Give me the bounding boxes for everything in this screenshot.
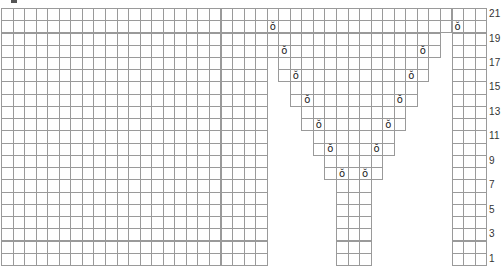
grid-cell — [255, 94, 268, 107]
grid-cell — [428, 45, 441, 58]
grid-cell — [475, 253, 488, 266]
grid-cell — [475, 155, 488, 168]
grid-cell — [475, 179, 488, 192]
grid-cell — [428, 33, 441, 46]
grid-cell — [255, 118, 268, 131]
yarn-over-icon: ŏ — [313, 120, 324, 130]
yarn-over-icon: ŏ — [394, 95, 405, 105]
grid-cell — [394, 118, 407, 131]
grid-cell — [475, 241, 488, 254]
yarn-over-icon: ŏ — [371, 144, 382, 154]
yarn-over-icon: ŏ — [452, 22, 463, 32]
grid-cell — [475, 143, 488, 156]
grid-cell — [371, 155, 384, 168]
row-number-label: 7 — [489, 180, 495, 190]
grid-cell — [255, 179, 268, 192]
grid-cell — [475, 106, 488, 119]
grid-cell — [475, 81, 488, 94]
row-number-label: 1 — [489, 254, 495, 264]
row-number-label: 11 — [489, 131, 499, 141]
grid-cell — [475, 20, 488, 33]
grid-cell — [475, 216, 488, 229]
grid-cell — [475, 45, 488, 58]
yarn-over-icon: ŏ — [302, 95, 313, 105]
grid-cell — [255, 106, 268, 119]
grid-cell — [359, 192, 372, 205]
grid-cell — [371, 167, 384, 180]
row-number-label: 9 — [489, 156, 495, 166]
grid-cell — [359, 216, 372, 229]
grid-cell — [475, 228, 488, 241]
row-number-label: 13 — [489, 107, 500, 117]
grid-cell — [382, 143, 395, 156]
grid-cell — [417, 57, 430, 70]
yarn-over-icon: ŏ — [417, 46, 428, 56]
yarn-over-icon: ŏ — [360, 169, 371, 179]
grid-cell — [255, 69, 268, 82]
row-number-label: 17 — [489, 58, 500, 68]
row-number-label: 3 — [489, 229, 495, 239]
knitting-chart: ŏŏŏŏŏŏŏŏŏŏŏŏŏŏ 21191715131197531 — [0, 0, 503, 270]
grid-cell — [255, 167, 268, 180]
yarn-over-icon: ŏ — [337, 169, 348, 179]
grid-cell — [475, 57, 488, 70]
grid-cell — [255, 155, 268, 168]
grid-cell — [359, 204, 372, 217]
grid-cell — [255, 57, 268, 70]
grid-cell — [255, 130, 268, 143]
grid-cell — [359, 253, 372, 266]
grid-cell — [255, 81, 268, 94]
yarn-over-icon: ŏ — [406, 71, 417, 81]
grid-cell — [382, 130, 395, 143]
grid-cell — [417, 69, 430, 82]
grid-cell — [255, 228, 268, 241]
row-number-label: 5 — [489, 205, 495, 215]
grid-cell — [255, 192, 268, 205]
yarn-over-icon: ŏ — [267, 22, 278, 32]
yarn-over-icon: ŏ — [279, 46, 290, 56]
row-number-label: 15 — [489, 82, 500, 92]
grid-cell — [255, 241, 268, 254]
corner-mark — [11, 0, 17, 3]
grid-cell — [475, 94, 488, 107]
yarn-over-icon: ŏ — [383, 120, 394, 130]
grid-cell — [475, 8, 488, 21]
grid-cell — [359, 241, 372, 254]
grid-cell — [475, 204, 488, 217]
grid-cell — [359, 179, 372, 192]
grid-cell — [475, 167, 488, 180]
grid-cell — [405, 94, 418, 107]
yarn-over-icon: ŏ — [290, 71, 301, 81]
grid-cell — [405, 81, 418, 94]
grid-cell — [255, 253, 268, 266]
yarn-over-icon: ŏ — [325, 144, 336, 154]
grid-cell — [475, 192, 488, 205]
grid-cell — [475, 33, 488, 46]
grid-cell — [255, 143, 268, 156]
grid-cell — [255, 216, 268, 229]
grid-cell — [255, 204, 268, 217]
grid-cell — [475, 118, 488, 131]
grid-cell — [394, 106, 407, 119]
grid-cell — [475, 69, 488, 82]
grid-cell — [475, 130, 488, 143]
row-number-label: 21 — [489, 9, 500, 19]
row-number-label: 19 — [489, 34, 500, 44]
grid-cell — [359, 228, 372, 241]
